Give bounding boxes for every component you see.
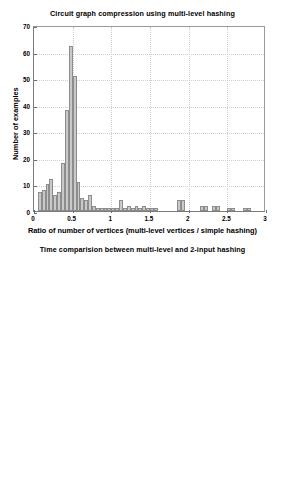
x-tick-label: 1.5 xyxy=(145,215,154,222)
y-tick-mark xyxy=(34,160,37,161)
y-tick-label: 60 xyxy=(16,49,30,56)
y-tick-label: 30 xyxy=(16,129,30,136)
x-tick-label: 0.5 xyxy=(67,215,76,222)
y-tick-mark xyxy=(34,27,37,28)
histogram-bar xyxy=(181,200,185,211)
x-tick-mark xyxy=(189,210,190,213)
y-tick-mark xyxy=(34,213,37,214)
y-tick-mark xyxy=(34,54,37,55)
y-tick-label: 0 xyxy=(16,209,30,216)
y-tick-label: 50 xyxy=(16,76,30,83)
x-tick-label: 2.5 xyxy=(222,215,231,222)
histogram-bar xyxy=(216,206,220,211)
y-tick-label: 10 xyxy=(16,182,30,189)
x-tick-label: 3 xyxy=(263,215,267,222)
x-tick-label: 1 xyxy=(109,215,113,222)
chart-title: Circuit graph compression using multi-le… xyxy=(0,9,285,18)
y-tick-mark xyxy=(34,133,37,134)
y-tick-label: 20 xyxy=(16,155,30,162)
y-tick-mark xyxy=(34,107,37,108)
x-tick-mark xyxy=(266,210,267,213)
y-tick-label: 40 xyxy=(16,102,30,109)
x-tick-label: 0 xyxy=(31,215,35,222)
y-tick-mark xyxy=(34,80,37,81)
histogram-bar xyxy=(247,208,251,211)
chart-figure-vertices-ratio: Circuit graph compression using multi-le… xyxy=(0,0,285,240)
chart-figure-time-ratio: Time comparision between multi-level and… xyxy=(0,240,285,481)
histogram-bar xyxy=(154,208,158,211)
histogram-bar xyxy=(231,208,235,211)
x-tick-label: 2 xyxy=(186,215,190,222)
gridline-vertical xyxy=(150,27,151,211)
y-tick-mark xyxy=(34,186,37,187)
plot-area xyxy=(33,26,265,212)
gridline-vertical xyxy=(111,27,112,211)
y-axis-label: Number of examples xyxy=(11,87,20,160)
x-axis-label: Ratio of number of vertices (multi-level… xyxy=(0,226,285,235)
histogram-bar xyxy=(204,206,208,211)
chart-title: Time comparision between multi-level and… xyxy=(0,245,285,254)
gridline-vertical xyxy=(189,27,190,211)
y-tick-label: 70 xyxy=(16,23,30,30)
gridline-vertical xyxy=(227,27,228,211)
